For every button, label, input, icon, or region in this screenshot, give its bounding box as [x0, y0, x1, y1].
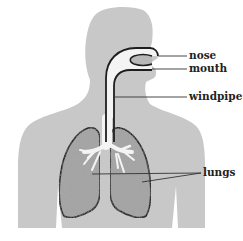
respiratory-diagram: nose mouth windpipe lungs	[0, 0, 243, 241]
label-nose: nose	[189, 50, 216, 61]
label-mouth: mouth	[189, 63, 227, 74]
label-windpipe: windpipe	[189, 91, 242, 102]
nasal-septum	[130, 55, 152, 66]
label-lungs: lungs	[203, 167, 236, 178]
body-illustration	[0, 0, 243, 241]
